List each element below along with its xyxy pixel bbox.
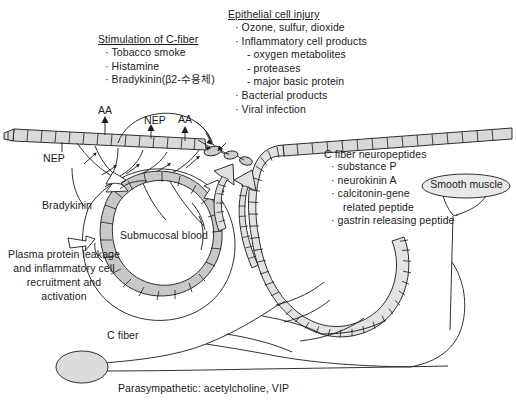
epithelial-item-4: - major basic protein [228,75,367,89]
epithelial-item-1: · Inflammatory cell products [228,35,367,49]
plasma-protein-leakage-label: Plasma protein leakage and inflammatory … [8,247,120,303]
nep-label-top: NEP [144,114,166,126]
epithelial-heading: Epithelial cell injury [228,8,367,21]
neuropeptides-item-4: · gastrin releasing peptide [324,214,455,228]
epithelial-cell-injury-block: Epithelial cell injury · Ozone, sulfur, … [228,8,367,116]
neuropeptides-item-3: related peptide [324,201,455,215]
stimulation-item-2: · Bradykinin(β2-수용체) [98,73,215,87]
stimulation-item-0: · Tobacco smoke [98,46,215,60]
stimulation-item-1: · Histamine [98,60,215,74]
c-fiber-label: C fiber [107,329,139,341]
epithelial-item-0: · Ozone, sulfur, dioxide [228,21,367,35]
stimulation-heading: Stimulation of C-fiber [98,33,215,46]
stimulation-of-c-fiber-block: Stimulation of C-fiber · Tobacco smoke ·… [98,33,215,87]
epithelial-item-3: - proteases [228,62,367,76]
aa-label-right: AA [178,113,192,125]
aa-label-left: AA [98,104,112,116]
nerve-terminal-varicosities [198,133,253,166]
nep-label-left: NEP [43,152,65,164]
epithelial-item-6: · Viral infection [228,103,367,117]
epithelial-item-2: - oxygen metabolites [228,48,367,62]
neuropeptides-item-0: · substance P [324,160,455,174]
neuropeptides-heading: C fiber neuropeptides [324,148,455,160]
diagram-canvas: Stimulation of C-fiber · Tobacco smoke ·… [0,0,516,402]
smooth-muscle-label: Smooth muscle [424,178,509,190]
epithelial-item-5: · Bacterial products [228,89,367,103]
bradykinin-label: Bradykinin [42,199,92,211]
parasympathetic-label: Parasympathetic: acetylcholine, VIP [118,382,289,394]
submucosal-blood-label: Submucosal blood [118,228,210,242]
